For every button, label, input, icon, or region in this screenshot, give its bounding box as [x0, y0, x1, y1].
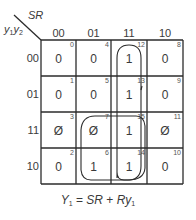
cell-value: 0	[162, 88, 169, 102]
row-header-01: 01	[27, 88, 39, 100]
cell-index: 8	[177, 41, 181, 48]
cell-value: Ø	[54, 124, 63, 138]
cell-value: Ø	[89, 124, 98, 138]
cell-value: 0	[162, 52, 169, 66]
row-variable-label: y1y2	[3, 23, 23, 36]
column-header-10: 10	[159, 27, 171, 39]
cell-value: 1	[126, 52, 133, 66]
column-header-01: 01	[87, 27, 99, 39]
kmap-row-01: 1 0 5 0 13 1 9 0	[55, 77, 181, 102]
column-variable-label: SR	[28, 9, 43, 21]
row-header-10: 10	[27, 160, 39, 172]
cell-index: 2	[70, 149, 74, 156]
cell-index: 5	[105, 77, 109, 84]
cell-value: 0	[55, 52, 62, 66]
karnaugh-map: SR y1y2 00 01 11 10 00 01 11 10 0 0 4 0 …	[0, 0, 196, 190]
cell-value: 1	[126, 160, 133, 174]
cell-value: 1	[126, 88, 133, 102]
row-header-00: 00	[27, 52, 39, 64]
cell-value: 0	[162, 160, 169, 174]
cell-index: 3	[70, 113, 74, 120]
kmap-row-00: 0 0 4 0 12 1 8 0	[55, 41, 181, 66]
kmap-row-10: 2 0 6 1 14 1 10 0	[55, 149, 181, 174]
cell-value: 0	[55, 88, 62, 102]
cell-index: 6	[105, 149, 109, 156]
cell-index: 0	[70, 41, 74, 48]
cell-index: 1	[70, 77, 74, 84]
column-header-00: 00	[52, 27, 64, 39]
cell-index: 4	[105, 41, 109, 48]
cell-index: 10	[173, 149, 181, 156]
cell-value: 0	[90, 88, 97, 102]
cell-index: 9	[177, 77, 181, 84]
column-header-11: 11	[123, 27, 134, 39]
cell-value: 1	[126, 124, 133, 138]
row-header-11: 11	[28, 124, 39, 136]
cell-value: 0	[55, 160, 62, 174]
cell-index: 12	[137, 41, 145, 48]
boolean-equation: Y1 = SR + Ry1	[0, 193, 196, 207]
cell-value: Ø	[160, 124, 169, 138]
cell-value: 0	[90, 52, 97, 66]
cell-index: 11	[174, 113, 181, 120]
cell-value: 1	[90, 160, 97, 174]
